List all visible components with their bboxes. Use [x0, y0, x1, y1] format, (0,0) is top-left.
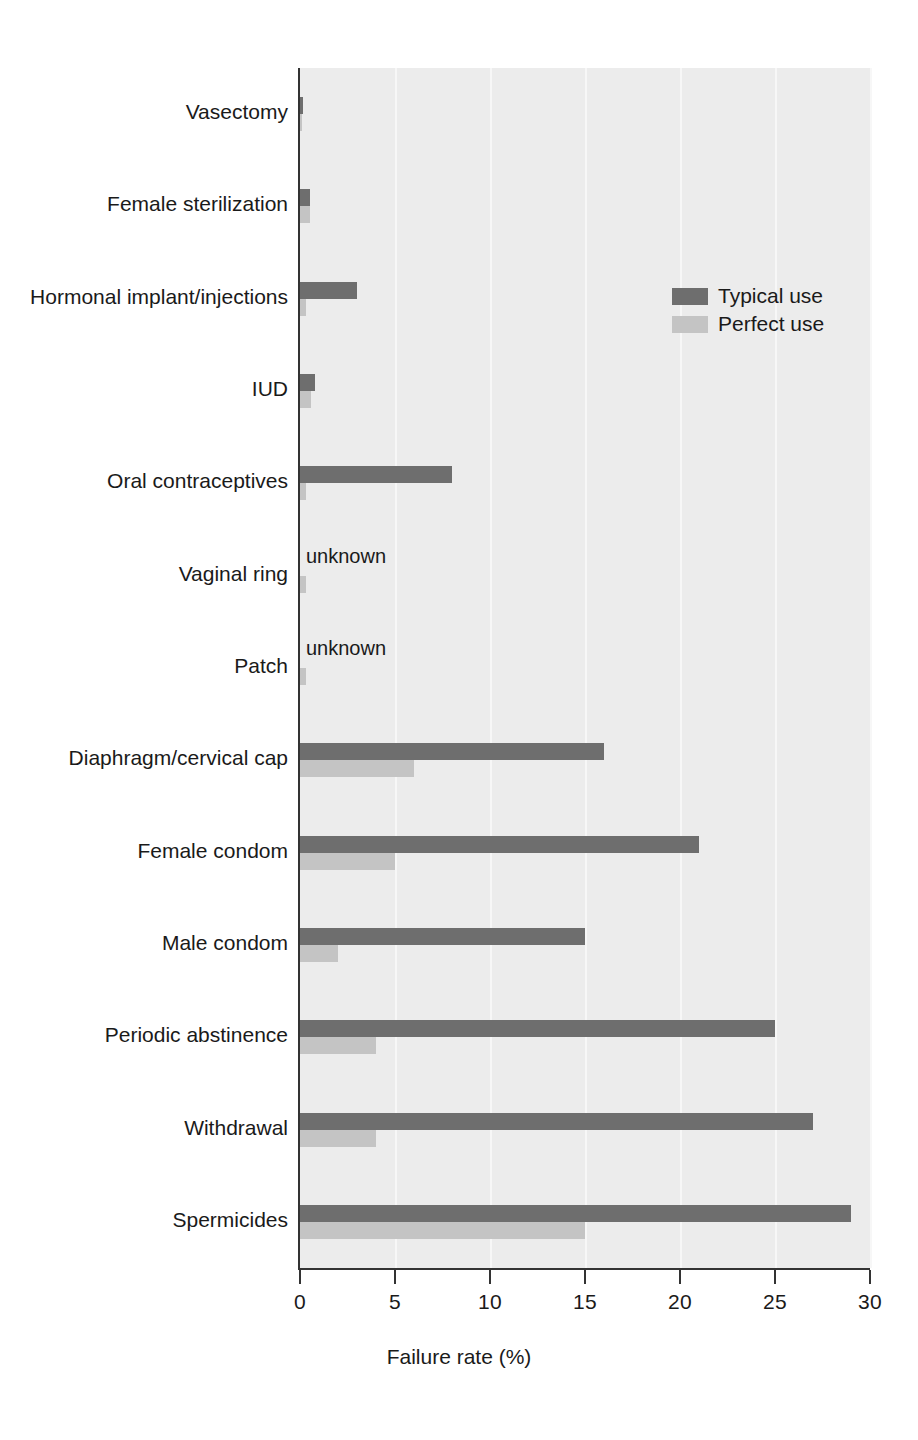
bar-typical-use	[300, 1113, 813, 1130]
bar-typical-use	[300, 189, 310, 206]
x-axis-tick-label: 5	[365, 1290, 425, 1314]
chart-legend: Typical use Perfect use	[672, 282, 824, 338]
bar-perfect-use	[300, 483, 306, 500]
bar-typical-use	[300, 282, 357, 299]
category-label: Vasectomy	[0, 100, 288, 124]
gridline	[490, 68, 492, 1268]
x-axis-title: Failure rate (%)	[0, 1345, 918, 1369]
bar-perfect-use	[300, 760, 414, 777]
category-label: Patch	[0, 654, 288, 678]
gridline	[680, 68, 682, 1268]
x-axis-tick-label: 30	[840, 1290, 900, 1314]
category-label: IUD	[0, 377, 288, 401]
bar-perfect-use	[300, 206, 310, 223]
x-axis-tick-label: 25	[745, 1290, 805, 1314]
category-label: Oral contraceptives	[0, 469, 288, 493]
bar-perfect-use	[300, 1130, 376, 1147]
legend-swatch-perfect-use-icon	[672, 316, 708, 333]
bar-typical-use	[300, 928, 585, 945]
x-axis-tick	[869, 1270, 871, 1284]
gridline	[395, 68, 397, 1268]
category-label: Female sterilization	[0, 192, 288, 216]
x-axis-tick-label: 15	[555, 1290, 615, 1314]
x-axis-tick-label: 0	[270, 1290, 330, 1314]
bar-perfect-use	[300, 1222, 585, 1239]
bar-typical-use	[300, 1205, 851, 1222]
x-axis-tick	[584, 1270, 586, 1284]
bar-perfect-use	[300, 945, 338, 962]
bar-typical-use	[300, 836, 699, 853]
x-axis-tick	[774, 1270, 776, 1284]
bar-perfect-use	[300, 853, 395, 870]
bar-perfect-use	[300, 299, 306, 316]
gridline	[775, 68, 777, 1268]
legend-item-typical-use: Typical use	[672, 282, 824, 310]
legend-label-perfect-use: Perfect use	[718, 312, 824, 336]
x-axis-tick	[679, 1270, 681, 1284]
bar-typical-use	[300, 374, 315, 391]
category-label: Hormonal implant/injections	[0, 285, 288, 309]
x-axis-tick	[394, 1270, 396, 1284]
bar-typical-use	[300, 466, 452, 483]
category-label: Spermicides	[0, 1208, 288, 1232]
category-label: Periodic abstinence	[0, 1023, 288, 1047]
plot-area	[300, 68, 870, 1268]
x-axis-tick	[299, 1270, 301, 1284]
category-label: Female condom	[0, 839, 288, 863]
bar-perfect-use	[300, 1037, 376, 1054]
category-label: Male condom	[0, 931, 288, 955]
legend-item-perfect-use: Perfect use	[672, 310, 824, 338]
category-label: Vaginal ring	[0, 562, 288, 586]
legend-swatch-typical-use-icon	[672, 288, 708, 305]
bar-value-label-unknown: unknown	[306, 545, 386, 568]
gridline	[585, 68, 587, 1268]
bar-perfect-use	[300, 114, 302, 131]
legend-label-typical-use: Typical use	[718, 284, 823, 308]
gridline	[870, 68, 872, 1268]
failure-rate-bar-chart: 051015202530 VasectomyFemale sterilizati…	[0, 0, 918, 1440]
x-axis-tick-label: 10	[460, 1290, 520, 1314]
category-label: Withdrawal	[0, 1116, 288, 1140]
bar-perfect-use	[300, 391, 311, 408]
x-axis-tick-label: 20	[650, 1290, 710, 1314]
category-label: Diaphragm/cervical cap	[0, 746, 288, 770]
bar-perfect-use	[300, 668, 306, 685]
bar-value-label-unknown: unknown	[306, 637, 386, 660]
x-axis-tick	[489, 1270, 491, 1284]
bar-typical-use	[300, 743, 604, 760]
bar-typical-use	[300, 97, 303, 114]
bar-perfect-use	[300, 576, 306, 593]
bar-typical-use	[300, 1020, 775, 1037]
